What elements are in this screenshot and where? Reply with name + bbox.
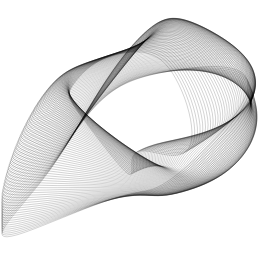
curve-family [2,18,257,237]
generative-line-art [0,0,262,264]
curve-line [2,63,257,206]
curve-line [2,65,257,211]
